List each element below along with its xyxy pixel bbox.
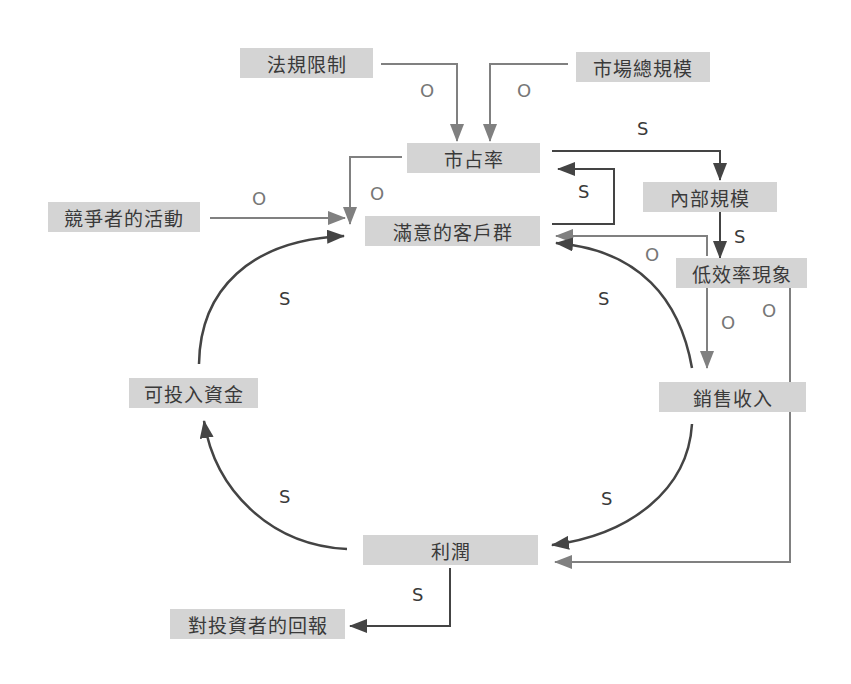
link-funds-to-customers <box>199 236 344 364</box>
polarity-label-s: S <box>279 488 290 506</box>
polarity-label-s: S <box>598 290 609 308</box>
polarity-label-o: O <box>252 190 266 208</box>
polarity-label-o: O <box>762 302 776 320</box>
link-inefficiency-to-profit <box>555 288 790 562</box>
polarity-label-o: O <box>517 82 531 100</box>
diagram-links <box>0 0 851 684</box>
node-investable-funds: 可投入資金 <box>129 378 258 408</box>
polarity-label-s: S <box>734 228 745 246</box>
node-market-size: 市場總規模 <box>576 52 710 82</box>
link-revenue-to-profit <box>552 424 692 545</box>
node-internal-scale: 內部規模 <box>643 182 777 212</box>
node-market-share: 市占率 <box>407 143 540 173</box>
node-investor-return: 對投資者的回報 <box>170 609 345 639</box>
link-revenue-to-customers <box>556 243 692 368</box>
node-profit: 利潤 <box>363 535 538 565</box>
polarity-label-s: S <box>637 120 648 138</box>
polarity-label-o: O <box>370 185 384 203</box>
node-satisfied-customers: 滿意的客戶群 <box>365 216 540 246</box>
link-profit-to-funds <box>204 421 347 549</box>
node-inefficiency: 低效率現象 <box>676 258 807 288</box>
polarity-label-s: S <box>412 586 423 604</box>
polarity-label-o: O <box>420 82 434 100</box>
polarity-label-s: S <box>578 183 589 201</box>
polarity-label-o: O <box>645 246 659 264</box>
link-profit-to-return <box>350 568 450 626</box>
node-sales-revenue: 銷售收入 <box>659 382 806 412</box>
link-share-to-internal <box>552 151 720 180</box>
polarity-label-s: S <box>601 490 612 508</box>
link-market-size-to-share <box>490 64 568 141</box>
link-regulation-to-share <box>381 64 457 141</box>
node-competitor-activity: 競爭者的活動 <box>48 202 200 232</box>
polarity-label-s: S <box>279 290 290 308</box>
polarity-label-o: O <box>721 314 735 332</box>
node-regulation: 法規限制 <box>240 48 373 78</box>
